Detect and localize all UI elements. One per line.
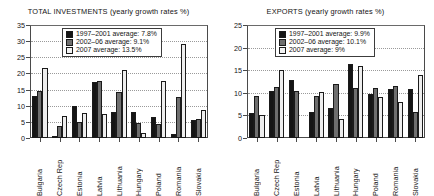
y-axis-tick-label: 10	[17, 101, 25, 110]
y-axis-tick-label: 5	[238, 111, 242, 120]
x-axis-tick-mark	[277, 138, 278, 142]
chart-title-exports: EXPORTS (yearly growth rates %)	[217, 7, 434, 16]
y-axis-tick-label: 30	[17, 37, 25, 46]
x-axis-tick-mark	[40, 138, 41, 142]
x-axis-category: Romania	[168, 138, 188, 196]
x-axis-category: Slovakia	[188, 138, 208, 196]
x-axis-tick-label: Poland	[154, 144, 163, 196]
x-axis-labels-exports: BulgariaCzech RepEstoniaLatviaLithuaniaH…	[247, 138, 425, 196]
legend-item: 2002–06 average: 10.1%	[279, 39, 370, 46]
x-axis-tick-label: Czech Rep	[55, 144, 64, 196]
x-axis-category: Lithuania	[109, 138, 129, 196]
x-axis-category: Latvia	[306, 138, 326, 196]
x-axis-tick-label: Czech Rep	[272, 144, 281, 196]
legend-swatch-icon	[279, 39, 286, 46]
legend-item: 1997–2001 average: 7.8%	[66, 31, 157, 38]
x-axis-tick-label: Slovakia	[411, 144, 420, 196]
panel-exports: EXPORTS (yearly growth rates %) 05101520…	[217, 0, 434, 196]
x-axis-labels-total-investments: BulgariaCzech RepEstoniaLatviaLithuaniaH…	[30, 138, 208, 196]
x-axis-tick-mark	[316, 138, 317, 142]
y-axis-tick-label: 35	[17, 21, 25, 30]
y-axis-exports: 0510152025	[217, 25, 247, 138]
x-axis-tick-label: Slovakia	[194, 144, 203, 196]
y-axis-tick-label: 25	[234, 21, 242, 30]
x-axis-tick-mark	[395, 138, 396, 142]
y-axis-tick-label: 0	[21, 134, 25, 143]
x-axis-tick-mark	[296, 138, 297, 142]
x-axis-category: Hungary	[129, 138, 149, 196]
x-axis-category: Latvia	[89, 138, 109, 196]
legend-label: 2002–06 average: 9.1%	[76, 39, 149, 46]
legend-item: 2007 average: 13.5%	[66, 47, 157, 54]
x-axis-tick-mark	[376, 138, 377, 142]
legend-label: 1997–2001 average: 7.8%	[76, 31, 157, 38]
x-axis-tick-mark	[119, 138, 120, 142]
x-axis-tick-mark	[356, 138, 357, 142]
x-axis-tick-mark	[60, 138, 61, 142]
y-axis-tick-label: 15	[17, 85, 25, 94]
legend-exports: 1997–2001 average: 9.9% 2002–06 average:…	[275, 28, 375, 57]
x-axis-category: Slovakia	[405, 138, 425, 196]
x-axis-tick-label: Lithuania	[115, 144, 124, 196]
x-axis-tick-label: Lithuania	[332, 144, 341, 196]
y-axis-tick-label: 0	[238, 134, 242, 143]
legend-label: 1997–2001 average: 9.9%	[289, 31, 370, 38]
x-axis-tick-mark	[178, 138, 179, 142]
x-axis-category: Estonia	[287, 138, 307, 196]
dual-bar-chart-figure: TOTAL INVESTMENTS (yearly growth rates %…	[0, 0, 434, 196]
x-axis-tick-mark	[159, 138, 160, 142]
x-axis-category: Estonia	[70, 138, 90, 196]
x-axis-category: Lithuania	[326, 138, 346, 196]
chart-title-total-investments: TOTAL INVESTMENTS (yearly growth rates %…	[0, 7, 217, 16]
legend-swatch-icon	[66, 39, 73, 46]
legend-total-investments: 1997–2001 average: 7.8% 2002–06 average:…	[62, 28, 162, 57]
x-axis-tick-label: Latvia	[312, 144, 321, 196]
gridline	[31, 57, 207, 58]
legend-item: 2002–06 average: 9.1%	[66, 39, 157, 46]
y-axis-total-investments: 05101520253035	[0, 25, 30, 138]
x-axis-tick-mark	[336, 138, 337, 142]
x-axis-tick-mark	[198, 138, 199, 142]
y-axis-tick-label: 10	[234, 88, 242, 97]
gridline	[248, 115, 424, 116]
legend-label: 2002–06 average: 10.1%	[289, 39, 366, 46]
x-axis-tick-label: Romania	[174, 144, 183, 196]
x-axis-tick-label: Estonia	[292, 144, 301, 196]
x-axis-tick-label: Estonia	[75, 144, 84, 196]
y-axis-tick-label: 25	[17, 53, 25, 62]
legend-swatch-icon	[279, 47, 286, 54]
legend-label: 2007 average: 9%	[289, 47, 345, 54]
x-axis-category: Hungary	[346, 138, 366, 196]
y-axis-tick-label: 20	[234, 43, 242, 52]
y-axis-tick-label: 15	[234, 66, 242, 75]
x-axis-tick-label: Hungary	[134, 144, 143, 196]
gridline	[31, 73, 207, 74]
legend-swatch-icon	[66, 31, 73, 38]
legend-swatch-icon	[66, 47, 73, 54]
y-axis-tick-label: 20	[17, 69, 25, 78]
x-axis-category: Romania	[385, 138, 405, 196]
x-axis-tick-mark	[79, 138, 80, 142]
x-axis-tick-mark	[257, 138, 258, 142]
x-axis-tick-label: Poland	[371, 144, 380, 196]
legend-label: 2007 average: 13.5%	[76, 47, 142, 54]
panel-total-investments: TOTAL INVESTMENTS (yearly growth rates %…	[0, 0, 217, 196]
x-axis-tick-label: Bulgaria	[35, 144, 44, 196]
y-axis-tick-label: 5	[21, 117, 25, 126]
x-axis-category: Poland	[149, 138, 169, 196]
x-axis-category: Bulgaria	[30, 138, 50, 196]
x-axis-tick-label: Hungary	[351, 144, 360, 196]
x-axis-category: Czech Rep	[267, 138, 287, 196]
x-axis-category: Poland	[366, 138, 386, 196]
x-axis-tick-mark	[99, 138, 100, 142]
x-axis-tick-label: Romania	[391, 144, 400, 196]
x-axis-category: Bulgaria	[247, 138, 267, 196]
x-axis-tick-label: Bulgaria	[252, 144, 261, 196]
legend-item: 2007 average: 9%	[279, 47, 370, 54]
x-axis-tick-label: Latvia	[95, 144, 104, 196]
x-axis-tick-mark	[415, 138, 416, 142]
gridline	[31, 122, 207, 123]
gridline	[248, 70, 424, 71]
x-axis-category: Czech Rep	[50, 138, 70, 196]
x-axis-tick-mark	[139, 138, 140, 142]
